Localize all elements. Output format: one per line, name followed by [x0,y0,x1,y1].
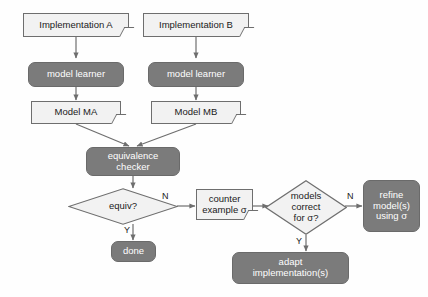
node-refine-models-line3: using σ [376,211,407,222]
node-counter-example-line1: counter [209,194,241,205]
node-counter-example[interactable]: counter example σ [196,189,253,220]
node-adapt-implementations-line2: implementation(s) [253,268,329,279]
node-implementation-a[interactable]: Implementation A [23,13,129,37]
node-models-correct-decision[interactable]: models correct for σ? [265,180,347,235]
node-equivalence-checker-line1: equivalence [108,151,159,162]
node-counter-example-line2: example σ [202,205,246,216]
edge-label-equiv-no: N [162,192,169,201]
node-model-mb[interactable]: Model MB [151,101,241,124]
node-done[interactable]: done [111,241,156,262]
node-refine-models-line1: refine [380,190,404,201]
node-model-ma[interactable]: Model MA [31,101,121,124]
flowchart-canvas: Implementation A Implementation B model … [0,0,428,297]
node-models-correct-decision-label: models correct for σ? [265,180,347,235]
node-model-learner-b-label: model learner [167,69,225,80]
node-refine-models[interactable]: refine model(s) using σ [363,180,420,232]
node-model-ma-label: Model MA [55,107,98,118]
edge-label-models-correct-yes: Y [296,237,302,246]
node-equivalence-checker-line2: checker [116,162,149,173]
node-model-learner-a[interactable]: model learner [28,62,124,87]
node-implementation-b[interactable]: Implementation B [143,13,249,37]
edge-mb-to-checker [137,124,196,146]
edge-label-equiv-yes: Y [124,226,130,235]
edge-label-models-correct-no: N [347,192,354,201]
node-models-correct-line3: for σ? [294,213,319,224]
edge-ma-to-checker [76,124,129,146]
node-model-mb-label: Model MB [175,107,218,118]
node-done-label: done [123,246,144,257]
node-implementation-a-label: Implementation A [39,20,112,31]
node-model-learner-b[interactable]: model learner [148,62,244,87]
node-model-learner-a-label: model learner [47,69,105,80]
node-adapt-implementations[interactable]: adapt implementation(s) [232,252,349,284]
connector-layer [0,0,428,297]
node-equivalence-checker[interactable]: equivalence checker [86,147,180,176]
node-implementation-b-label: Implementation B [159,20,233,31]
